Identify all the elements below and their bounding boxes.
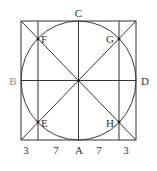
point-h-marker xyxy=(118,121,121,124)
point-e-marker xyxy=(37,121,40,124)
bottom-label-right-outer: 3 xyxy=(123,144,129,156)
bottom-label-left-outer: 3 xyxy=(23,144,29,156)
label-d: D xyxy=(141,75,149,87)
label-g: G xyxy=(106,33,114,45)
label-h: H xyxy=(106,117,114,129)
label-b: B xyxy=(9,75,16,87)
label-a: A xyxy=(75,144,83,156)
bottom-label-left-inner: 7 xyxy=(53,144,59,156)
label-e: E xyxy=(41,117,48,129)
label-c: C xyxy=(75,7,82,19)
label-f: F xyxy=(41,33,47,45)
bottom-label-right-inner: 7 xyxy=(96,144,102,156)
center-point-marker xyxy=(77,79,80,82)
point-f-marker xyxy=(37,38,40,41)
geometry-diagram: C B D F G E H 3 7 A 7 3 xyxy=(0,0,157,171)
point-g-marker xyxy=(118,38,121,41)
